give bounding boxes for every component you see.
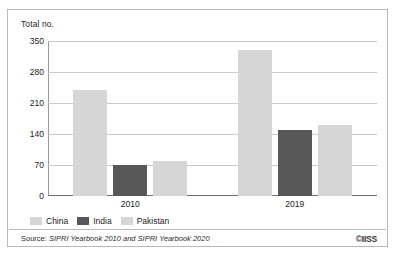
legend-item-china[interactable]: China bbox=[30, 216, 68, 226]
bar-china-2019 bbox=[238, 50, 272, 196]
y-axis-tick-labels: 070140210280350 bbox=[8, 41, 44, 196]
source-reference: SIPRI Yearbook 2010 and SIPRI Yearbook 2… bbox=[49, 234, 210, 243]
y-axis-tick-label: 280 bbox=[14, 67, 44, 77]
bar-pakistan-2019 bbox=[318, 125, 352, 196]
legend-swatch-china bbox=[30, 217, 42, 225]
legend-label: Pakistan bbox=[137, 216, 170, 226]
legend: ChinaIndiaPakistan bbox=[30, 216, 169, 226]
footer-divider bbox=[9, 229, 386, 230]
x-axis-tick-label: 2019 bbox=[213, 199, 378, 209]
iiss-logo: ©IISS bbox=[356, 234, 377, 244]
source-note: Source: SIPRI Yearbook 2010 and SIPRI Ye… bbox=[21, 234, 210, 243]
legend-item-india[interactable]: India bbox=[77, 216, 111, 226]
y-axis-tick-label: 70 bbox=[14, 160, 44, 170]
bar-india-2010 bbox=[113, 165, 147, 196]
gridline bbox=[48, 41, 377, 42]
source-label: Source: bbox=[21, 234, 49, 243]
legend-label: India bbox=[93, 216, 111, 226]
legend-swatch-pakistan bbox=[121, 217, 133, 225]
plot-area bbox=[48, 41, 377, 196]
bar-china-2010 bbox=[73, 90, 107, 196]
figure-frame: Total no. 070140210280350 20102019 China… bbox=[7, 9, 388, 247]
chart-screenshot: Total no. 070140210280350 20102019 China… bbox=[0, 0, 396, 255]
gridline bbox=[48, 72, 377, 73]
y-axis-tick-label: 140 bbox=[14, 129, 44, 139]
legend-item-pakistan[interactable]: Pakistan bbox=[121, 216, 170, 226]
y-axis-tick-label: 0 bbox=[14, 191, 44, 201]
bar-india-2019 bbox=[278, 130, 312, 196]
bar-pakistan-2010 bbox=[153, 161, 187, 196]
x-axis-tick-labels: 20102019 bbox=[48, 199, 377, 211]
legend-swatch-india bbox=[77, 217, 89, 225]
y-axis-tick-label: 210 bbox=[14, 98, 44, 108]
clipped-caption-strip bbox=[0, 0, 396, 8]
y-axis-tick-label: 350 bbox=[14, 36, 44, 46]
y-axis-title: Total no. bbox=[21, 19, 54, 29]
legend-label: China bbox=[46, 216, 68, 226]
x-axis-tick-label: 2010 bbox=[48, 199, 213, 209]
